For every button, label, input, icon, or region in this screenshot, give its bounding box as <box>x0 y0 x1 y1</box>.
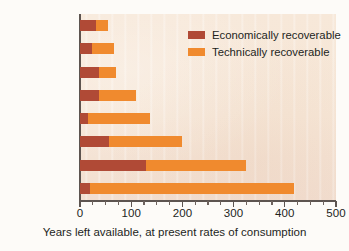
legend-label: Technically recoverable <box>212 46 329 58</box>
bar-segment-economically-recoverable <box>80 183 90 194</box>
x-axis-tick-label: 0 <box>77 207 84 219</box>
x-axis-tick-label: 500 <box>326 207 346 219</box>
x-axis-minor-tick <box>143 201 144 205</box>
bar-segment-economically-recoverable <box>80 43 92 54</box>
x-axis-tick-label: 100 <box>121 207 141 219</box>
x-axis-minor-tick <box>220 201 221 205</box>
bar-segment-economically-recoverable <box>80 90 99 101</box>
x-axis-minor-tick <box>92 201 93 205</box>
x-axis-minor-tick <box>207 201 208 205</box>
bar-row <box>80 183 336 194</box>
bar-row <box>80 136 336 147</box>
bar-segment-economically-recoverable <box>80 113 88 124</box>
y-axis-line <box>79 14 81 201</box>
x-axis-tick-label: 300 <box>224 207 244 219</box>
chart-legend: Economically recoverableTechnically reco… <box>188 27 341 61</box>
x-axis-minor-tick <box>259 201 260 205</box>
x-axis-tick-label: 200 <box>173 207 193 219</box>
x-axis-minor-tick <box>156 201 157 205</box>
x-axis-minor-tick <box>195 201 196 205</box>
bar-row <box>80 113 336 124</box>
bar-segment-economically-recoverable <box>80 160 146 171</box>
bar-segment-technically-recoverable <box>80 183 294 194</box>
bar-segment-economically-recoverable <box>80 67 99 78</box>
x-axis-minor-tick <box>323 201 324 205</box>
x-axis-minor-tick <box>246 201 247 205</box>
x-axis-minor-tick <box>169 201 170 205</box>
chart-figure: 0100200300400500 NickelIron from oreMoly… <box>0 0 349 251</box>
legend-swatch-icon <box>188 31 205 39</box>
bar-row <box>80 67 336 78</box>
x-axis-minor-tick <box>310 201 311 205</box>
x-axis-minor-tick <box>118 201 119 205</box>
bar-segment-technically-recoverable <box>80 113 150 124</box>
x-axis-minor-tick <box>297 201 298 205</box>
bar-row <box>80 160 336 171</box>
legend-item: Technically recoverable <box>188 44 341 59</box>
x-axis-tick-label: 400 <box>275 207 295 219</box>
bar-row <box>80 90 336 101</box>
x-axis-minor-tick <box>271 201 272 205</box>
legend-swatch-icon <box>188 48 205 56</box>
x-axis-title: Years left available, at present rates o… <box>0 226 349 238</box>
bar-segment-economically-recoverable <box>80 20 96 31</box>
x-axis-minor-tick <box>105 201 106 205</box>
legend-item: Economically recoverable <box>188 27 341 42</box>
legend-label: Economically recoverable <box>212 29 341 41</box>
bar-segment-economically-recoverable <box>80 136 109 147</box>
